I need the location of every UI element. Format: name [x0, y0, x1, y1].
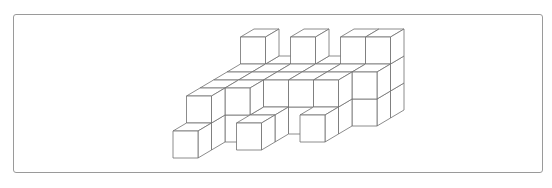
cube-front-face [225, 88, 250, 115]
cube-front-face [241, 37, 266, 64]
cube-front-face [352, 72, 377, 99]
cube-front-face [300, 115, 325, 142]
cube-front-face [289, 80, 314, 107]
cube-front-face [366, 37, 391, 64]
cube-front-face [264, 80, 289, 107]
cube-front-face [173, 131, 198, 158]
cube-front-face [187, 96, 212, 123]
cube-front-face [291, 37, 316, 64]
cube-front-face [237, 123, 262, 150]
cube-front-face [314, 80, 339, 107]
cube-structure-diagram [0, 0, 552, 188]
cube-front-face [341, 37, 366, 64]
cube-front-face [352, 99, 377, 126]
